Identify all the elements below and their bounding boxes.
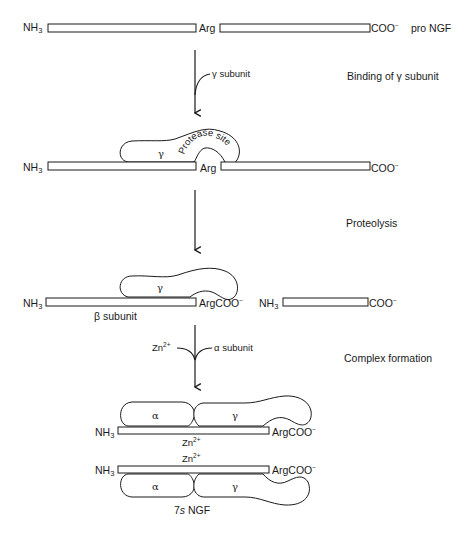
beta-chain-bottom [118,466,269,473]
alpha-label: α [152,481,159,492]
arrow-step-1: γ subunit Binding of γ subunit [195,50,439,113]
arg-label: Arg [200,162,217,174]
n-terminus-label: NH3 [95,464,114,478]
gamma-label: γ [232,481,238,492]
beta-subunit-label: β subunit [94,310,137,322]
n-terminus-label: NH3 [95,426,114,440]
gamma-subunit-input-label: γ subunit [212,68,250,79]
c-terminus-label: COO− [369,297,397,309]
zinc-input-label: Zn2+ [152,341,171,353]
zinc-label: Zn2+ [182,436,201,448]
ngf-processing-diagram: NH3 Arg COO− pro NGF γ subunit Binding o… [0,0,469,533]
step-complex-formation-label: Complex formation [344,352,432,364]
7s-ngf-label: 7s NGF [174,504,210,516]
released-peptide [283,298,368,306]
c-terminus-label: ArgCOO− [272,464,316,476]
arg-label: Arg [199,22,216,34]
gamma-subunit-shape [120,268,237,299]
n-terminus-label: NH3 [23,297,42,311]
n-terminus-label: NH3 [23,161,42,175]
c-terminus-label: COO− [371,22,399,34]
peptide-chain-left [48,162,196,170]
beta-chain-top [118,427,269,434]
peptide-chain-left [48,24,196,32]
zinc-label: Zn2+ [182,452,201,464]
stage-pro-ngf: NH3 Arg COO− pro NGF [23,21,451,35]
c-terminus-label: COO− [371,162,399,174]
beta-chain [46,298,196,306]
n-terminus-label: NH3 [259,297,278,311]
gamma-subunit-shape [194,396,311,426]
curved-input-arrow-icon [195,348,212,360]
alpha-subunit-input-label: α subunit [214,342,253,353]
c-terminus-label: ArgCOO− [272,426,316,438]
arrow-step-3: Zn2+ α subunit Complex formation [152,325,432,387]
arrow-step-2: Proteolysis [195,190,397,250]
step-binding-label: Binding of γ subunit [347,70,439,82]
curved-input-arrow-icon [195,74,210,95]
curved-input-arrow-icon [177,348,195,360]
peptide-chain-right [220,24,370,32]
gamma-subunit-shape [194,474,310,505]
peptide-chain-right [221,162,370,170]
c-terminus-label: ArgCOO− [199,297,243,309]
pro-ngf-label: pro NGF [411,22,451,34]
gamma-label: γ [158,148,164,159]
gamma-label: γ [157,282,163,293]
alpha-label: α [152,410,159,421]
stage-7s-ngf: α γ NH3 ArgCOO− Zn2+ Zn2+ NH3 ArgCOO− α … [95,396,316,516]
n-terminus-label: NH3 [23,21,42,35]
step-proteolysis-label: Proteolysis [346,217,397,229]
stage-gamma-bound: γ Protease site NH3 Arg COO− [23,126,399,175]
stage-cleaved: γ NH3 ArgCOO− β subunit NH3 COO− [23,268,397,322]
gamma-label: γ [232,410,238,421]
